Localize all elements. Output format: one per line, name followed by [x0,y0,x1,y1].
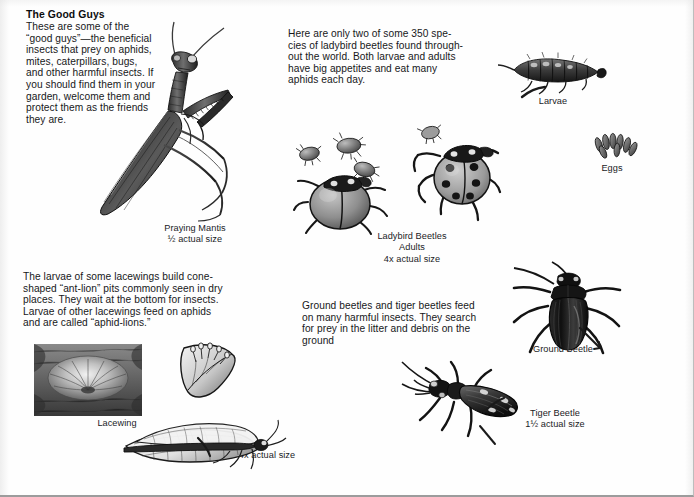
ladybird-paragraph: Here are only two of some 350 spe- cies … [288,28,503,86]
tiger-beetle-leader-line-lower [478,424,500,446]
ground-beetle-illustration [502,262,632,354]
praying-mantis-illustration [78,18,258,223]
caption-ladybird-beetles: Ladybird Beetles Adults 4x actual size [352,231,472,265]
ground-beetle-leader-line [578,326,608,352]
ladybird-larva-illustration [498,48,608,96]
caption-praying-mantis: Praying Mantis ½ actual size [135,223,255,246]
ladybird-adult-spotted-illustration [412,126,504,226]
tiger-beetle-leader-line [482,396,508,416]
caption-eggs: Eggs [572,163,652,174]
ground-beetle-paragraph: Ground beetles and tiger beetles feed on… [302,300,517,346]
ladybird-eggs-illustration [592,131,642,161]
ant-lion-pit-illustration [34,344,142,416]
ladybird-adult-plain-illustration [294,168,389,234]
lacewing-scale-leader-line [196,436,224,458]
lacewing-egg-leaf-illustration [178,342,240,402]
field-guide-page: The Good Guys These are some of the “goo… [0,0,694,497]
lacewing-paragraph: The larvae of some lacewings build cone-… [23,271,278,329]
larvae-leader-line [520,86,548,100]
